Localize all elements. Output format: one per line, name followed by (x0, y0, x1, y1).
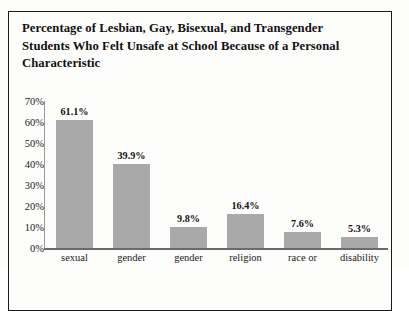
bar-slot: 16.4% (217, 96, 274, 248)
y-axis-tick-label: 20% (8, 201, 44, 212)
y-axis-line (44, 101, 45, 248)
bar-slot: 7.6% (274, 96, 331, 248)
bar (341, 237, 378, 248)
bar (227, 214, 264, 248)
plot-area: 0%10%20%30%40%50%60%70% 61.1%39.9%9.8%16… (8, 96, 392, 270)
x-axis-category-label: disability (331, 251, 388, 264)
x-axis-category-label: religion (217, 251, 274, 264)
x-axis-category-labels: sexualgendergenderreligionrace ordisabil… (46, 251, 388, 270)
y-axis-tick-label: 10% (8, 222, 44, 233)
x-axis-category-label: race or (274, 251, 331, 264)
chart-title: Percentage of Lesbian, Gay, Bisexual, an… (22, 20, 372, 73)
x-axis-category-label: sexual (46, 251, 103, 264)
y-axis-tick-label: 50% (8, 138, 44, 149)
bar (170, 227, 207, 248)
bar (284, 232, 321, 248)
y-axis-tick-labels: 0%10%20%30%40%50%60%70% (8, 96, 44, 248)
y-axis-tick-label: 40% (8, 159, 44, 170)
bar-value-label: 5.3% (331, 223, 388, 234)
bar (56, 120, 93, 248)
bar-value-label: 9.8% (160, 213, 217, 224)
x-axis-category-label: gender (160, 251, 217, 264)
bar-value-label: 16.4% (217, 200, 274, 211)
bar-slot: 39.9% (103, 96, 160, 248)
y-axis-tick-label: 70% (8, 96, 44, 107)
bar-value-label: 61.1% (46, 106, 103, 117)
bar-slot: 9.8% (160, 96, 217, 248)
bar-series: 61.1%39.9%9.8%16.4%7.6%5.3% (46, 96, 388, 248)
y-axis-tick-label: 0% (8, 243, 44, 254)
x-axis-line (44, 248, 388, 250)
bar-slot: 5.3% (331, 96, 388, 248)
bar-slot: 61.1% (46, 96, 103, 248)
bar (113, 164, 150, 248)
bar-value-label: 39.9% (103, 150, 160, 161)
y-axis-tick-label: 60% (8, 117, 44, 128)
y-axis-tick-label: 30% (8, 180, 44, 191)
x-axis-category-label: gender (103, 251, 160, 264)
bar-value-label: 7.6% (274, 218, 331, 229)
